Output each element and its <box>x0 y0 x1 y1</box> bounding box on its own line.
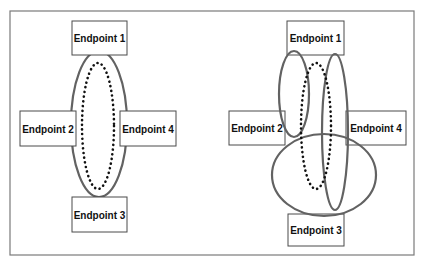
endpoint-label: Endpoint 3 <box>74 210 126 221</box>
diagram-canvas: Endpoint 1Endpoint 2Endpoint 4Endpoint 3… <box>0 0 425 265</box>
endpoint-box: Endpoint 1 <box>72 21 127 55</box>
endpoint-box: Endpoint 3 <box>288 214 344 246</box>
endpoint-box: Endpoint 1 <box>287 21 344 55</box>
endpoint-label: Endpoint 4 <box>350 123 402 134</box>
endpoint-label: Endpoint 1 <box>74 33 126 44</box>
endpoint-box: Endpoint 2 <box>20 111 76 146</box>
endpoint-box: Endpoint 2 <box>229 111 285 145</box>
endpoint-label: Endpoint 3 <box>290 225 342 236</box>
endpoint-box: Endpoint 4 <box>346 111 406 145</box>
endpoint-label: Endpoint 1 <box>290 33 342 44</box>
endpoint-box: Endpoint 4 <box>120 111 176 146</box>
endpoint-label: Endpoint 2 <box>22 124 74 135</box>
endpoint-label: Endpoint 4 <box>122 124 174 135</box>
endpoint-box: Endpoint 3 <box>72 197 127 232</box>
endpoint-label: Endpoint 2 <box>231 123 283 134</box>
